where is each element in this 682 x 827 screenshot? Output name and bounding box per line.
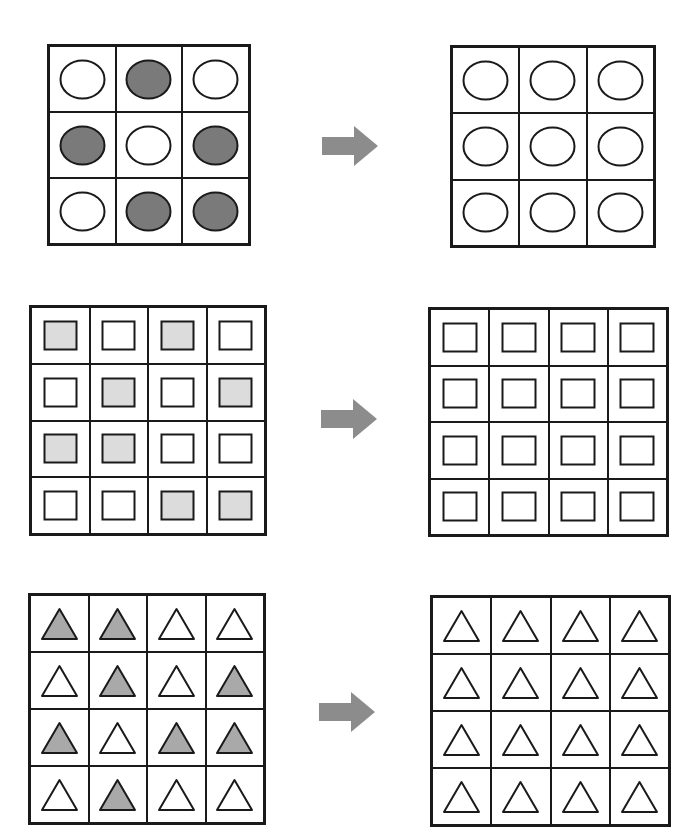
empty-circle-icon <box>59 191 106 232</box>
grid-cell-r4-c1 <box>30 766 89 823</box>
grid-cell-r3-c3 <box>147 709 206 766</box>
grid-cell-r4-c3 <box>549 479 608 536</box>
grid-cell-r2-c2 <box>489 366 548 423</box>
filled-triangle-icon <box>98 664 137 698</box>
empty-triangle-icon <box>442 723 481 757</box>
grid-cell-r3-c2 <box>489 422 548 479</box>
grid-cell-r1-c2 <box>116 46 183 112</box>
empty-triangle-icon <box>40 778 79 812</box>
grid-cell-r3-c1 <box>452 180 519 246</box>
empty-square-icon <box>218 320 253 351</box>
grid-cell-r1-c2 <box>489 309 548 366</box>
empty-square-icon <box>501 435 537 466</box>
empty-square-icon <box>43 377 78 408</box>
grid-cell-r2-c3 <box>147 652 206 709</box>
empty-triangle-icon <box>215 607 254 641</box>
grid-cell-r1-c2 <box>89 595 148 652</box>
empty-square-icon <box>619 322 655 353</box>
empty-square-icon <box>560 491 596 522</box>
filled-circle-icon <box>192 191 239 232</box>
empty-triangle-icon <box>501 780 540 814</box>
grid-cell-r3-c1 <box>430 422 489 479</box>
empty-square-icon <box>501 322 537 353</box>
grid-cell-r1-c3 <box>182 46 249 112</box>
grid-cell-r4-c2 <box>90 477 149 534</box>
grid-cell-r1-c3 <box>587 47 654 113</box>
filled-square-icon <box>160 490 195 521</box>
grid-cell-r2-c2 <box>491 654 550 711</box>
filled-square-icon <box>218 490 253 521</box>
grid-cell-r1-c2 <box>90 307 149 364</box>
empty-triangle-icon <box>157 664 196 698</box>
grid-cell-r3-c4 <box>206 709 265 766</box>
empty-triangle-icon <box>620 780 659 814</box>
grid-cell-r2-c2 <box>116 112 183 178</box>
grid-cell-r1-c2 <box>491 597 550 654</box>
grid-triangle-after <box>430 595 671 827</box>
empty-square-icon <box>501 378 537 409</box>
empty-square-icon <box>560 435 596 466</box>
grid-cell-r4-c1 <box>432 768 491 825</box>
grid-cell-r2-c3 <box>182 112 249 178</box>
grid-cell-r4-c1 <box>430 479 489 536</box>
filled-square-icon <box>43 433 78 464</box>
empty-triangle-icon <box>561 780 600 814</box>
grid-cell-r4-c4 <box>610 768 669 825</box>
grid-cell-r3-c2 <box>116 178 183 244</box>
empty-circle-icon <box>462 60 509 101</box>
grid-cell-r2-c2 <box>519 113 586 179</box>
empty-square-icon <box>442 491 478 522</box>
filled-circle-icon <box>125 59 172 100</box>
grid-cell-r3-c1 <box>31 421 90 478</box>
empty-circle-icon <box>597 192 644 233</box>
grid-cell-r3-c4 <box>207 421 266 478</box>
filled-circle-icon <box>59 125 106 166</box>
filled-square-icon <box>101 377 136 408</box>
empty-square-icon <box>160 433 195 464</box>
grid-cell-r2-c3 <box>148 364 207 421</box>
grid-cell-r2-c1 <box>452 113 519 179</box>
grid-cell-r1-c3 <box>147 595 206 652</box>
grid-cell-r4-c2 <box>89 766 148 823</box>
grid-cell-r2-c4 <box>207 364 266 421</box>
filled-triangle-icon <box>98 607 137 641</box>
empty-circle-icon <box>529 126 576 167</box>
empty-square-icon <box>218 433 253 464</box>
grid-cell-r3-c1 <box>432 711 491 768</box>
empty-circle-icon <box>529 60 576 101</box>
empty-triangle-icon <box>620 666 659 700</box>
grid-cell-r3-c3 <box>551 711 610 768</box>
empty-triangle-icon <box>157 607 196 641</box>
grid-cell-r2-c3 <box>549 366 608 423</box>
empty-circle-icon <box>529 192 576 233</box>
empty-square-icon <box>619 435 655 466</box>
grid-cell-r2-c3 <box>587 113 654 179</box>
filled-triangle-icon <box>40 721 79 755</box>
grid-cell-r3-c3 <box>182 178 249 244</box>
grid-cell-r4-c3 <box>551 768 610 825</box>
empty-triangle-icon <box>561 723 600 757</box>
grid-cell-r4-c4 <box>206 766 265 823</box>
grid-cell-r1-c2 <box>519 47 586 113</box>
empty-triangle-icon <box>442 609 481 643</box>
empty-square-icon <box>619 378 655 409</box>
grid-cell-r3-c2 <box>491 711 550 768</box>
grid-cell-r1-c3 <box>551 597 610 654</box>
grid-cell-r4-c4 <box>207 477 266 534</box>
empty-triangle-icon <box>620 609 659 643</box>
grid-cell-r1-c4 <box>206 595 265 652</box>
empty-circle-icon <box>462 126 509 167</box>
grid-cell-r1-c3 <box>549 309 608 366</box>
empty-square-icon <box>501 491 537 522</box>
empty-triangle-icon <box>40 664 79 698</box>
grid-cell-r4-c4 <box>608 479 667 536</box>
grid-square-before <box>29 305 267 536</box>
grid-cell-r1-c3 <box>148 307 207 364</box>
grid-circle-after <box>450 45 656 248</box>
grid-cell-r2-c2 <box>90 364 149 421</box>
empty-triangle-icon <box>501 609 540 643</box>
empty-square-icon <box>442 378 478 409</box>
right-arrow-icon <box>319 397 379 441</box>
grid-cell-r4-c3 <box>148 477 207 534</box>
empty-square-icon <box>619 491 655 522</box>
